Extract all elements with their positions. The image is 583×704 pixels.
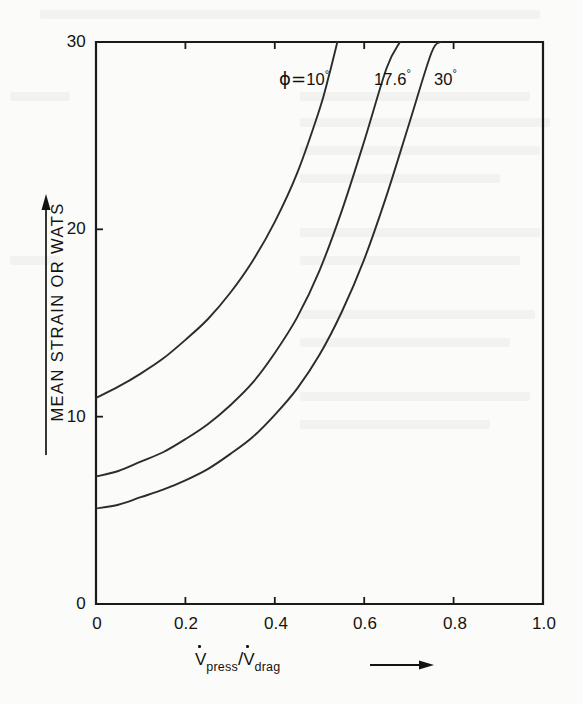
x-tick-label-0-6: 0.6 [353,614,377,634]
x-axis-title: Vpress/Vdrag [195,648,280,672]
x-tick-label-0-8: 0.8 [443,614,467,634]
x-tick-label-0-2: 0.2 [174,614,198,634]
x-tick-label-0-4: 0.4 [264,614,288,634]
y-axis-title: MEAN STRAIN OR WATS [48,182,72,442]
x-axis-arrow [370,661,434,670]
data-curves [96,42,440,508]
subscript-press: press [206,660,238,674]
y-tick-label-0: 0 [44,594,86,614]
degree-symbol: ° [453,67,458,79]
v-dot-denominator: V [243,650,254,670]
plot-frame [96,42,543,604]
degree-symbol: ° [407,67,412,79]
curve-label-phi-10: ϕ=10° [279,68,329,89]
line-chart [0,0,583,704]
phi-symbol: ϕ= [279,68,306,89]
y-tick-label-30: 30 [44,32,86,52]
v-dot-numerator: V [195,650,206,670]
curve-label-phi-30: 30° [434,68,457,89]
curve-label-value: 17.6 [374,70,407,88]
curve-3 [96,42,440,508]
x-tick-label-0: 0 [92,614,102,634]
curve-label-value: 30 [434,70,453,88]
curve-label-value: 10 [306,70,325,88]
subscript-drag: drag [255,660,281,674]
figure-panel: 30 20 10 0 0 0.2 0.4 0.6 0.8 1.0 ϕ=10° 1… [0,0,583,704]
x-tick-label-1-0: 1.0 [532,614,556,634]
curve-2 [96,42,400,477]
curve-label-phi-17-6: 17.6° [374,68,411,89]
degree-symbol: ° [325,68,330,80]
curve-1 [96,42,337,398]
y-axis-title-text: MEAN STRAIN OR WATS [48,202,66,421]
axis-ticks [96,42,454,604]
